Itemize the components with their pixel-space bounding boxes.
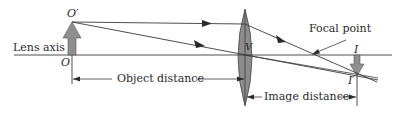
image-distance-label: Image distance [264,91,349,102]
object-distance-left-arrow [73,77,80,82]
object-distance-label: Object distance [117,73,204,84]
focal-point-pointer [315,40,346,53]
lens-axis-label: Lens axis [13,42,65,53]
focal-point-pointer-head [312,49,320,55]
object-top-label: O′ [67,8,79,19]
focal-point-label: Focal point [309,23,371,34]
image-tip-label: I′ [348,75,355,86]
image-base-label: I [354,44,358,55]
parallel-ray-arrow [202,20,212,27]
parallel-ray-in [72,22,245,24]
lens-center-label: V [245,42,252,52]
lens-diagram: Lens axis O′ O V Focal point I I′ Object… [0,0,405,113]
object-arrow [63,22,81,55]
refracted-ray-arrow [276,35,286,43]
image-distance-right-arrow [349,95,356,100]
object-base-label: O [61,57,70,68]
